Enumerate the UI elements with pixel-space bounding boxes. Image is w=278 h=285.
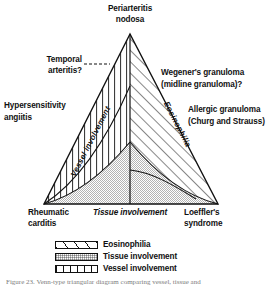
legend-label-eosinophilia: Eosinophilia [103,240,150,249]
legend-swatch-vessel-involvement [55,265,98,273]
legend-item-eosinophilia: Eosinophilia [55,240,150,249]
legend-item-tissue-involvement: Tissue involvement [55,252,177,261]
bottom-center-label: Tissue involvement [79,208,181,219]
legend-swatch-eosinophilia [55,241,98,249]
hypersensitivity-angiitis-label-line2: angiitis [4,113,32,124]
allergic-granuloma-label-line2: (Churg and Strauss) [188,117,265,128]
wegener-granuloma-label-line1: Wegener's granuloma [161,68,244,79]
figure-root: Periarteritis nodosa Temporal arteritis?… [0,0,278,285]
hypersensitivity-angiitis-label-line1: Hypersensitivity [4,101,66,112]
legend-item-vessel-involvement: Vessel involvement [55,264,177,273]
legend-label-vessel-involvement: Vessel involvement [103,264,177,273]
bottom-right-label-line2: syndrome [184,219,222,230]
bottom-left-label-line1: Rheumatic [28,208,69,219]
wegener-granuloma-label-line2: (midline granuloma)? [161,80,242,91]
temporal-arteritis-label-line1: Temporal [12,55,82,66]
bottom-right-label-line1: Loeffler's [184,208,220,219]
temporal-arteritis-label-line2: arteritis? [12,66,82,77]
apex-label-line2: nodosa [92,15,168,26]
apex-label-line1: Periarteritis [92,4,168,15]
legend-label-tissue-involvement: Tissue involvement [103,252,177,261]
figure-caption: Figure 23. Venn-type triangular diagram … [6,278,272,285]
bottom-left-label-line2: carditis [28,219,56,230]
legend-swatch-tissue-involvement [55,253,98,261]
allergic-granuloma-label-line1: Allergic granuloma [188,105,260,116]
